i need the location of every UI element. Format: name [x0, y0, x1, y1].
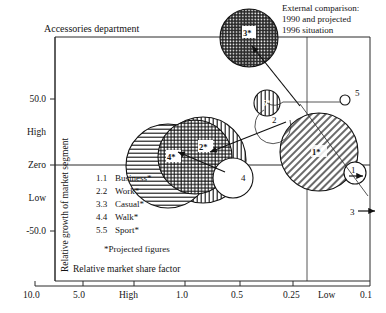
- x-tick-5: 0.25: [283, 290, 300, 300]
- legend-code-1: 2.2: [96, 186, 107, 196]
- bubble-label-3: 3*: [243, 28, 252, 38]
- bubble-label-4: 4*: [167, 152, 176, 162]
- y-tick-4: -50.0: [26, 226, 46, 236]
- x-axis: 10.0 5.0 High 1.0 0.5 0.25 Low 0.1: [23, 281, 372, 300]
- legend-label-1: Work*: [115, 186, 140, 196]
- x-tick-1: 5.0: [73, 290, 85, 300]
- y-tick-3: Low: [29, 193, 47, 203]
- legend-footnote: *Projected figures: [104, 244, 170, 254]
- svg-text:1990 and projected: 1990 and projected: [282, 14, 351, 24]
- x-tick-7: 0.1: [360, 290, 372, 300]
- x-tick-0: 10.0: [23, 290, 40, 300]
- ref-marker-5[interactable]: [340, 95, 350, 105]
- ref-label-4: 4: [241, 173, 246, 183]
- legend-label-3: Walk*: [115, 212, 139, 222]
- y-tick-0: 50.0: [29, 94, 46, 104]
- bubble-label-2: 2*: [199, 142, 208, 152]
- ref-label-3: 3: [350, 207, 355, 217]
- svg-text:1996 situation: 1996 situation: [282, 25, 334, 35]
- bubble-label-5: 5*: [262, 98, 271, 108]
- legend-code-2: 3.3: [96, 199, 108, 209]
- legend-label-4: Sport*: [115, 225, 140, 235]
- y-axis-title: Relative growth of market segment: [60, 138, 70, 272]
- x-tick-3: 1.0: [176, 290, 188, 300]
- chart-container: 50.0 High Zero Low -50.0 Relative growth…: [0, 0, 386, 313]
- legend-code-4: 5.5: [96, 225, 108, 235]
- bubble-label-1: 1*: [312, 147, 321, 157]
- legend-code-3: 4.4: [96, 212, 108, 222]
- ref-marker-4[interactable]: [213, 158, 253, 198]
- bcg-matrix-chart: 50.0 High Zero Low -50.0 Relative growth…: [0, 0, 386, 313]
- ref-label-5: 5: [355, 88, 360, 98]
- x-tick-4: 0.5: [231, 290, 243, 300]
- page-title: Accessories department: [44, 23, 139, 34]
- legend-label-2: Casual*: [115, 199, 144, 209]
- ref-label-2: 2: [272, 115, 277, 125]
- y-tick-2: Zero: [28, 160, 46, 170]
- x-tick-2: High: [119, 290, 138, 300]
- legend-code-0: 1.1: [96, 173, 107, 183]
- x-tick-6: Low: [318, 290, 336, 300]
- external-comparison-note: External comparison: 1990 and projected …: [282, 3, 359, 35]
- svg-text:External comparison:: External comparison:: [282, 3, 359, 13]
- x-axis-title: Relative market share factor: [73, 264, 181, 274]
- y-axis: 50.0 High Zero Low -50.0: [26, 37, 55, 281]
- y-tick-1: High: [27, 127, 46, 137]
- legend-label-0: Business*: [115, 173, 152, 183]
